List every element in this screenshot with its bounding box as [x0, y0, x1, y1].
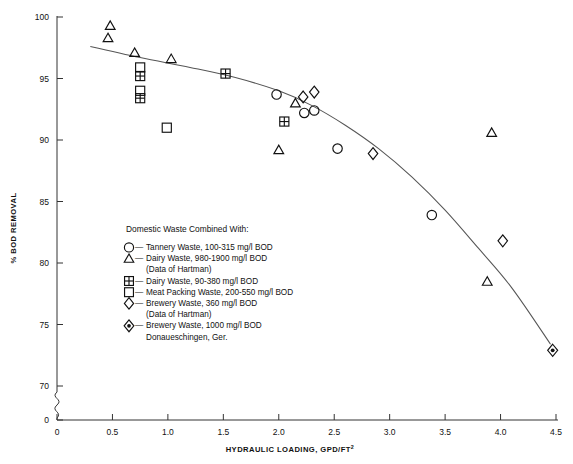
legend-dash: — [135, 321, 144, 330]
legend-row: (Data of Hartman) [146, 310, 212, 319]
legend-symbol-diamond [124, 298, 133, 310]
legend-row: —Brewery Waste, 360 mg/l BOD [124, 298, 257, 310]
data-point-triangle [274, 145, 284, 154]
legend-label: Brewery Waste, 360 mg/l BOD [146, 299, 257, 308]
legend-row: —Dairy Waste, 980-1900 mg/l BOD [124, 254, 267, 263]
legend-label: (Data of Hartman) [146, 310, 212, 319]
chart-page: 1009590858075700 00.51.01.52.02.53.03.54… [0, 0, 573, 464]
data-point-circle [427, 210, 436, 219]
legend-title: Domestic Waste Combined With: [126, 224, 249, 234]
data-point-square [136, 63, 145, 72]
x-tick-label: 1.5 [217, 427, 229, 437]
legend-row: —Brewery Waste, 1000 mg/l BOD [124, 320, 262, 332]
legend-row: (Data of Hartman) [146, 265, 212, 274]
data-point-crossed-square [221, 69, 230, 78]
y-tick-label: 75 [40, 320, 50, 330]
legend-dash: — [135, 288, 144, 297]
data-point-triangle [482, 277, 492, 286]
x-axis-ticks: 00.51.01.52.02.53.03.54.04.5 [55, 414, 563, 437]
x-tick-label: 3.5 [439, 427, 451, 437]
x-tick-label: 3.0 [384, 427, 396, 437]
legend-label: Tannery Waste, 100-315 mg/l BOD [146, 243, 273, 252]
y-tick-label: 70 [40, 381, 50, 391]
data-point-triangle [103, 33, 113, 42]
x-axis-title: HYDRAULIC LOADING, GPD/FT2 [226, 444, 355, 454]
data-point-circle [333, 144, 342, 153]
data-point-square [162, 123, 171, 132]
legend-label: (Data of Hartman) [146, 265, 212, 274]
legend-row: —Dairy Waste, 90-380 mg/l BOD [125, 277, 259, 286]
y-tick-label: 100 [35, 12, 49, 22]
bod-removal-vs-hydraulic-loading-chart: 1009590858075700 00.51.01.52.02.53.03.54… [0, 0, 573, 464]
data-point-dotted-diamond [548, 344, 558, 356]
data-point-circle [272, 90, 281, 99]
legend-symbol-triangle [124, 254, 133, 262]
chart-legend: Domestic Waste Combined With: —Tannery W… [124, 224, 293, 342]
legend-symbol-crossed-square [125, 277, 134, 286]
y-tick-label: 80 [40, 258, 50, 268]
data-point-crossed-square [280, 117, 289, 126]
legend-label: Brewery Waste, 1000 mg/l BOD [146, 321, 262, 330]
y-tick-label-zero: 0 [44, 415, 49, 425]
legend-row: Donaueschingen, Ger. [146, 333, 227, 342]
data-point-diamond [310, 86, 319, 98]
legend-dash: — [135, 243, 144, 252]
x-tick-label: 4.5 [550, 427, 562, 437]
data-point-triangle [487, 128, 497, 137]
data-point-diamond [368, 148, 377, 160]
x-tick-label: 2.0 [273, 427, 285, 437]
legend-label: Donaueschingen, Ger. [146, 333, 227, 342]
data-point-triangle [105, 21, 115, 30]
legend-row: —Meat Packing Waste, 200-550 mg/l BOD [125, 288, 294, 297]
y-axis-title: % BOD REMOVAL [9, 192, 18, 263]
legend-label: Dairy Waste, 90-380 mg/l BOD [146, 277, 258, 286]
legend-rows: —Tannery Waste, 100-315 mg/l BOD—Dairy W… [124, 243, 293, 342]
x-tick-label: 2.5 [328, 427, 340, 437]
data-point-crossed-square [136, 71, 145, 80]
x-tick-label: 0.5 [107, 427, 119, 437]
legend-dash: — [135, 299, 144, 308]
legend-symbol-square [125, 288, 134, 297]
y-tick-label: 85 [40, 197, 50, 207]
legend-dash: — [135, 277, 144, 286]
data-point-diamond [498, 235, 507, 247]
legend-symbol-circle [124, 243, 133, 252]
x-tick-label: 1.0 [162, 427, 174, 437]
legend-label: Dairy Waste, 980-1900 mg/l BOD [146, 254, 267, 263]
y-axis-ticks: 1009590858075700 [35, 12, 63, 425]
data-point-triangle [166, 54, 176, 63]
x-tick-label: 0 [55, 427, 60, 437]
legend-dash: — [135, 254, 144, 263]
data-point-circle [300, 108, 309, 117]
x-tick-label: 4.0 [495, 427, 507, 437]
y-tick-label: 95 [40, 74, 50, 84]
legend-label: Meat Packing Waste, 200-550 mg/l BOD [146, 288, 293, 297]
legend-symbol-dotted-diamond [124, 320, 134, 332]
legend-row: —Tannery Waste, 100-315 mg/l BOD [124, 243, 272, 252]
y-tick-label: 90 [40, 135, 50, 145]
